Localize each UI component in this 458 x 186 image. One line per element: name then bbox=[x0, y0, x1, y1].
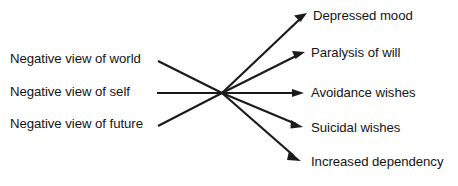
edge-hub-to-depressed-mood bbox=[222, 19, 300, 93]
output-label-suicidal-wishes: Suicidal wishes bbox=[311, 121, 400, 134]
edge-hub-to-paralysis-of-will bbox=[222, 55, 298, 93]
input-label-negative-view-of-world: Negative view of world bbox=[10, 52, 141, 65]
output-edges bbox=[222, 13, 307, 161]
edge-hub-to-suicidal-wishes bbox=[222, 93, 296, 124]
output-label-avoidance-wishes: Avoidance wishes bbox=[311, 86, 416, 99]
edge-world-to-hub bbox=[158, 61, 222, 93]
output-label-increased-dependency: Increased dependency bbox=[311, 155, 443, 168]
input-label-negative-view-of-future: Negative view of future bbox=[10, 117, 143, 130]
input-label-negative-view-of-self: Negative view of self bbox=[10, 85, 130, 98]
input-edges bbox=[157, 61, 222, 126]
arrowhead-avoidance-wishes-icon bbox=[292, 89, 304, 97]
output-label-paralysis-of-will: Paralysis of will bbox=[311, 46, 400, 59]
edge-hub-to-increased-dependency bbox=[222, 93, 294, 156]
arrowhead-increased-dependency-icon bbox=[287, 151, 301, 161]
cognitive-triad-diagram: Negative view of world Negative view of … bbox=[0, 0, 458, 186]
arrowhead-suicidal-wishes-icon bbox=[291, 120, 304, 129]
arrowhead-depressed-mood-icon bbox=[294, 13, 307, 22]
output-label-depressed-mood: Depressed mood bbox=[313, 9, 413, 22]
edge-future-to-hub bbox=[158, 93, 222, 126]
